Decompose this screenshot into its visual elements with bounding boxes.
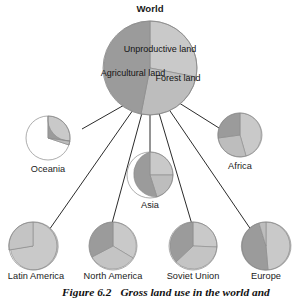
figure-caption-number: Figure 6.2 (62, 286, 111, 298)
region-label-oceania: Oceania (31, 165, 66, 175)
region-label-europe: Europe (251, 272, 281, 282)
slice-label-unproductive-text: Unproductive land (124, 44, 197, 54)
figure-caption-text: Gross land use in the world and (120, 286, 269, 298)
slice-label-unproductive: Unproductive land (124, 45, 197, 55)
connector-africa (176, 101, 219, 128)
pie-soviet-union (169, 222, 217, 270)
region-label-latin-america: Latin America (8, 272, 64, 282)
pie-latin-america (9, 222, 59, 270)
pie-africa-slice-agricultural (218, 113, 240, 138)
pie-asia (127, 152, 173, 198)
region-label-asia: Asia (141, 201, 159, 211)
pie-oceania (26, 116, 70, 160)
slice-label-forest: Forest land (155, 74, 200, 84)
region-label-north-america: North America (84, 272, 143, 282)
pie-europe-slice-unproductive (266, 222, 291, 270)
figure-caption: Figure 6.2Gross land use in the world an… (62, 286, 270, 298)
pie-north-america (89, 222, 137, 270)
figure-6-2: World Unproductive land Agricultural lan… (0, 0, 299, 304)
region-label-soviet-union: Soviet Union (167, 272, 220, 282)
pie-latin-america-slice-forest (9, 222, 33, 250)
pie-africa (218, 113, 262, 157)
pie-soviet-union-slice-unproductive (193, 222, 217, 247)
world-title: World (136, 4, 163, 14)
slice-label-forest-text: Forest land (155, 73, 200, 83)
connector-oceania (82, 104, 126, 129)
region-label-africa: Africa (228, 162, 252, 172)
pie-europe (241, 222, 291, 270)
